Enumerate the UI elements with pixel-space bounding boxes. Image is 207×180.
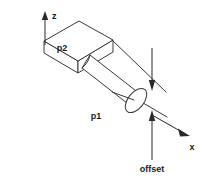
label-box-p2: p2 [57,43,68,53]
label-z-axis: z [52,11,57,21]
label-offset: offset [140,164,165,174]
axis-x [152,115,190,137]
shape-cylinder-p1 [82,55,151,116]
label-cylinder-p1: p1 [91,111,102,121]
offset-lower-arrowhead [149,110,155,121]
diagram-svg: z x p2 p1 offset [0,0,207,180]
offset-upper-arrowhead [149,80,155,91]
x-axis-shaft [152,115,182,132]
figure-root: z x p2 p1 offset [0,0,207,180]
x-axis-arrowhead [178,129,190,137]
label-x-axis: x [189,142,194,152]
dimension-offset [149,48,155,160]
z-axis-arrowhead [42,11,48,20]
